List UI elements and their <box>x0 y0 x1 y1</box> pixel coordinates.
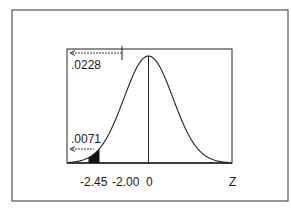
axis-label-z: Z <box>229 175 236 189</box>
outer-frame <box>12 10 288 201</box>
tick-label-neg245: -2.45 <box>80 175 108 189</box>
tick-label-zero: 0 <box>146 175 153 189</box>
tick-label-neg200: -2.00 <box>112 175 140 189</box>
area-label-0071: .0071 <box>71 132 101 146</box>
normal-curve-figure: .0228 .0071 -2.45 -2.00 0 Z <box>0 0 291 211</box>
area-label-0228: .0228 <box>71 58 101 72</box>
